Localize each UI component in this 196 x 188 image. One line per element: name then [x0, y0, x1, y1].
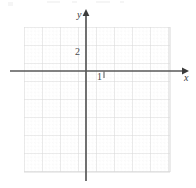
x-tick-label-1: 1 — [97, 72, 102, 82]
coordinate-plane-svg — [0, 0, 196, 188]
grid-major — [24, 27, 170, 172]
scan-artifact — [72, 1, 77, 3]
scan-artifact — [47, 1, 60, 3]
scan-artifact — [120, 1, 124, 3]
y-axis-label: y — [77, 10, 81, 20]
y-axis-arrowhead — [83, 9, 90, 16]
scan-artifact — [8, 2, 13, 6]
coordinate-plane-figure: y x 2 1 — [0, 0, 196, 188]
y-tick-label-2: 2 — [75, 47, 80, 57]
scan-artifact — [96, 1, 110, 3]
x-axis-label: x — [184, 73, 188, 83]
